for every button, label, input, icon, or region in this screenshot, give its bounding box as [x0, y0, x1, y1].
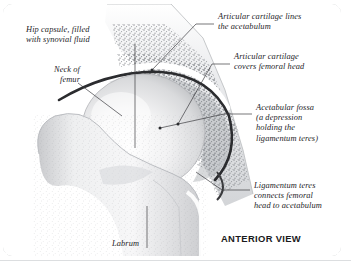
label-neck-of-femur: Neck of femur — [0, 65, 80, 85]
femur — [33, 114, 208, 256]
label-articular-cartilage-head: Articular cartilage covers femoral head — [234, 52, 346, 72]
label-labrum: Labrum — [112, 239, 152, 249]
hip-joint-figure: Hip capsule, filled with synovial fluid … — [0, 0, 351, 268]
label-acetabular-fossa: Acetabular fossa (a depression holding t… — [256, 103, 348, 144]
figure-baseline-rule — [0, 260, 351, 261]
label-ligamentum-teres: Ligamentum teres connects femoral head t… — [254, 181, 350, 212]
label-hip-capsule: Hip capsule, filled with synovial fluid — [26, 25, 134, 45]
anterior-view-caption: ANTERIOR VIEW — [221, 233, 301, 244]
label-articular-cartilage-acetabulum: Articular cartilage lines the acetabulum — [218, 12, 344, 32]
